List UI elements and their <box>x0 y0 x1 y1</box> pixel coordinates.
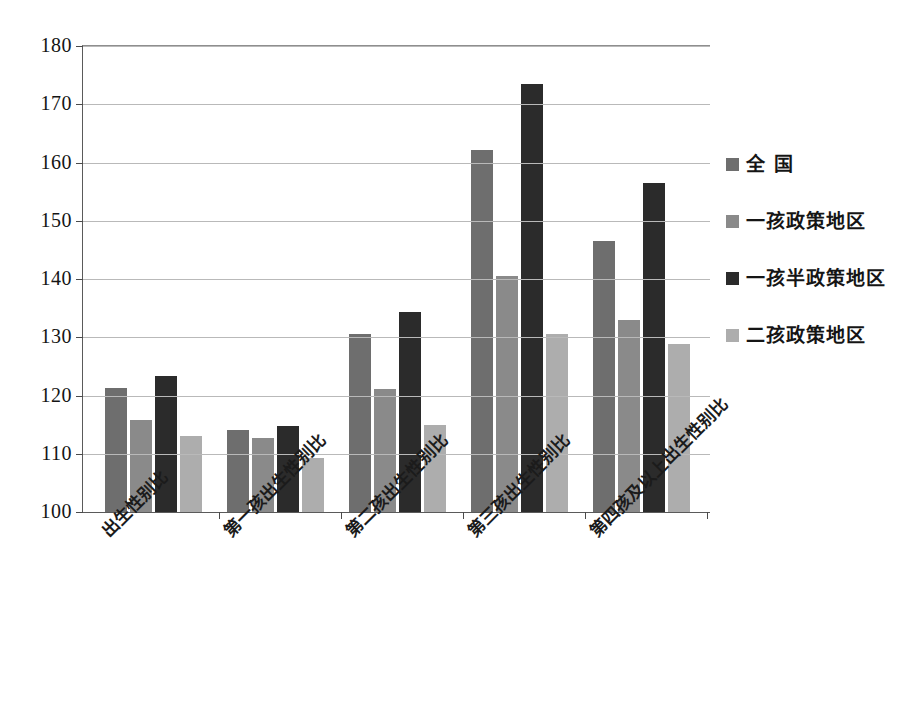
legend-item: 一孩半政策地区 <box>726 269 906 288</box>
legend-swatch-icon <box>726 215 739 228</box>
y-axis-tick-label: 170 <box>20 93 72 113</box>
legend-swatch-icon <box>726 329 739 342</box>
gridline <box>83 279 710 280</box>
gridline <box>83 396 710 397</box>
y-axis-tick-mark <box>76 163 83 164</box>
bar <box>180 436 202 512</box>
y-axis-tick-mark <box>76 512 83 513</box>
y-axis-tick-label: 150 <box>20 210 72 230</box>
y-axis-tick-label: 130 <box>20 326 72 346</box>
legend-label: 全 国 <box>746 155 794 174</box>
bar <box>521 84 543 512</box>
gridline <box>83 163 710 164</box>
x-axis-tick-mark <box>585 512 586 519</box>
y-axis-tick-label: 180 <box>20 35 72 55</box>
y-axis-tick-mark <box>76 46 83 47</box>
legend-item: 二孩政策地区 <box>726 326 906 345</box>
bar <box>105 388 127 512</box>
y-axis-tick-mark <box>76 337 83 338</box>
bar <box>593 241 615 512</box>
bar-chart: 全 国一孩政策地区一孩半政策地区二孩政策地区 18017016015014013… <box>0 0 912 710</box>
plot-area <box>82 45 710 513</box>
gridline <box>83 221 710 222</box>
y-axis-tick-label: 160 <box>20 152 72 172</box>
gridline <box>83 104 710 105</box>
legend-swatch-icon <box>726 272 739 285</box>
y-axis-tick-label: 100 <box>20 501 72 521</box>
chart-legend: 全 国一孩政策地区一孩半政策地区二孩政策地区 <box>726 155 906 383</box>
x-axis-tick-mark <box>341 512 342 519</box>
y-axis-tick-mark <box>76 279 83 280</box>
y-axis-tick-label: 140 <box>20 268 72 288</box>
y-axis-tick-mark <box>76 454 83 455</box>
bar <box>471 150 493 512</box>
legend-swatch-icon <box>726 158 739 171</box>
x-axis-tick-mark <box>219 512 220 519</box>
gridline <box>83 337 710 338</box>
x-axis-tick-mark <box>463 512 464 519</box>
y-axis-tick-label: 120 <box>20 385 72 405</box>
legend-label: 二孩政策地区 <box>746 326 866 345</box>
y-axis-tick-label: 110 <box>20 443 72 463</box>
y-axis-tick-mark <box>76 396 83 397</box>
legend-item: 全 国 <box>726 155 906 174</box>
y-axis-tick-mark <box>76 221 83 222</box>
legend-label: 一孩半政策地区 <box>746 269 886 288</box>
y-axis-tick-mark <box>76 104 83 105</box>
bar <box>349 334 371 512</box>
legend-label: 一孩政策地区 <box>746 212 866 231</box>
gridline <box>83 454 710 455</box>
bar <box>546 334 568 512</box>
gridline <box>83 46 710 47</box>
legend-item: 一孩政策地区 <box>726 212 906 231</box>
x-axis-tick-mark <box>707 512 708 519</box>
